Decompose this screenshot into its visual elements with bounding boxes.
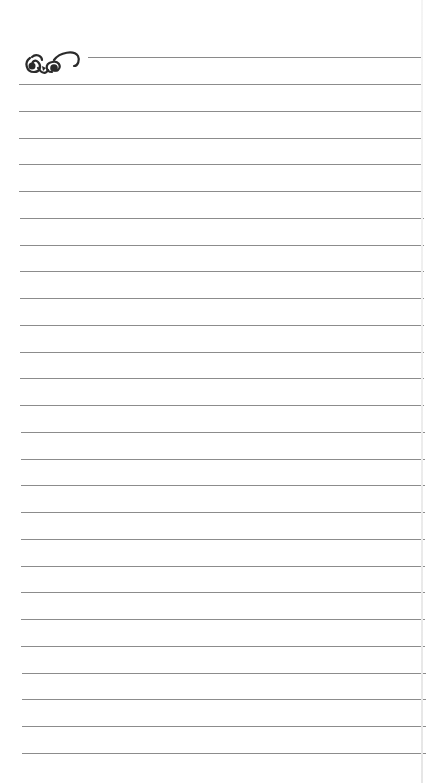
ruled-line [20,298,424,299]
ruled-line [19,84,423,85]
ruled-line [22,753,426,754]
ruled-line [22,726,426,727]
ruled-line [21,485,425,486]
ruled-line [20,325,424,326]
flourish-scroll-icon [22,48,82,78]
ruled-line [22,673,426,674]
ruled-line [20,218,424,219]
header-rule [88,57,423,58]
ruled-line [21,539,425,540]
ruled-line [19,191,423,192]
ruled-line [21,459,425,460]
ruled-line [21,432,425,433]
ruled-line [20,271,424,272]
ruled-line [20,378,424,379]
ruled-line [22,699,426,700]
ruled-line [21,592,425,593]
ruled-line [21,646,425,647]
ruled-line [19,164,423,165]
ruled-line [21,512,425,513]
ruled-line [20,352,424,353]
ruled-line [20,405,424,406]
ruled-line [20,245,424,246]
ruled-line [21,619,425,620]
ruled-line [19,138,423,139]
ruled-line [19,111,423,112]
page-edge [421,0,423,783]
ruled-line [21,566,425,567]
